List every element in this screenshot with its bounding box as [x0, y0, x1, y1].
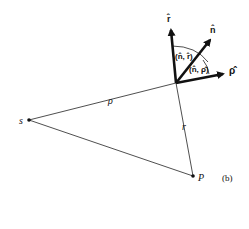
- s-to-p-line: [29, 120, 193, 176]
- panel-label: (b): [222, 173, 233, 183]
- angle-n-r-label: (n̂, r̂): [175, 52, 193, 61]
- r-distance-label: r: [182, 121, 186, 132]
- field-point: [191, 174, 195, 178]
- rho-hat-label: ρ̂: [229, 65, 237, 76]
- source-label: s: [19, 115, 23, 126]
- diagram-canvas: r̂ n̂ ρ̂ (n̂, r̂) (n̂, ρ̂) ρ r s P (b): [0, 0, 249, 229]
- field-point-label: P: [197, 172, 204, 183]
- angle-n-rho-label: (n̂, ρ̂): [189, 65, 209, 74]
- r-hat-label: r̂: [166, 13, 171, 24]
- rho-distance-label: ρ: [107, 95, 113, 106]
- rho-line: [29, 83, 176, 120]
- n-hat-label: n̂: [210, 24, 216, 35]
- source-point: [27, 118, 31, 122]
